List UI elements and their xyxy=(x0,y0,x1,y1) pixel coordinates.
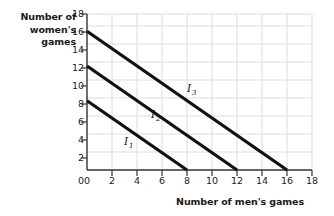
curve-label-I3: I 3 xyxy=(186,82,197,97)
svg-text:1: 1 xyxy=(129,142,133,150)
svg-text:3: 3 xyxy=(192,89,197,97)
svg-text:2: 2 xyxy=(155,115,161,123)
curve-label-I1: I 1 xyxy=(123,135,133,150)
grid-horizontal xyxy=(87,14,312,152)
plot-area: I 1 I 2 I 3 xyxy=(0,0,334,216)
axes xyxy=(87,14,312,170)
chart-container: Number of women's games Number of men's … xyxy=(0,0,334,216)
grid-vertical xyxy=(112,14,312,170)
x-axis-ticks xyxy=(112,170,312,176)
y-axis-ticks xyxy=(81,14,87,158)
curve-label-I2: I 2 xyxy=(150,108,161,123)
